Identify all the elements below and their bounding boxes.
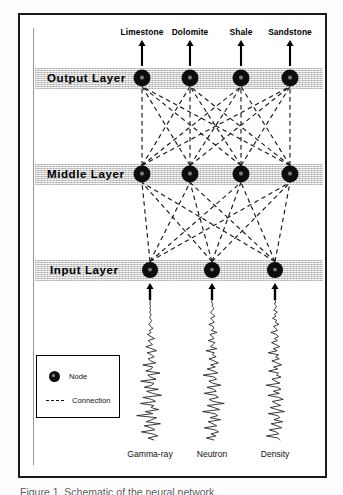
network-graphic	[0, 0, 343, 495]
figure-root: Output Layer Middle Layer Input Layer Li…	[0, 0, 343, 495]
figure-caption: Figure 1. Schematic of the neural networ…	[20, 486, 330, 495]
connection-lines	[142, 87, 290, 262]
input-arrows	[146, 283, 278, 300]
network-nodes	[134, 70, 299, 279]
well-log-curves	[137, 300, 285, 440]
output-arrows	[138, 40, 293, 66]
